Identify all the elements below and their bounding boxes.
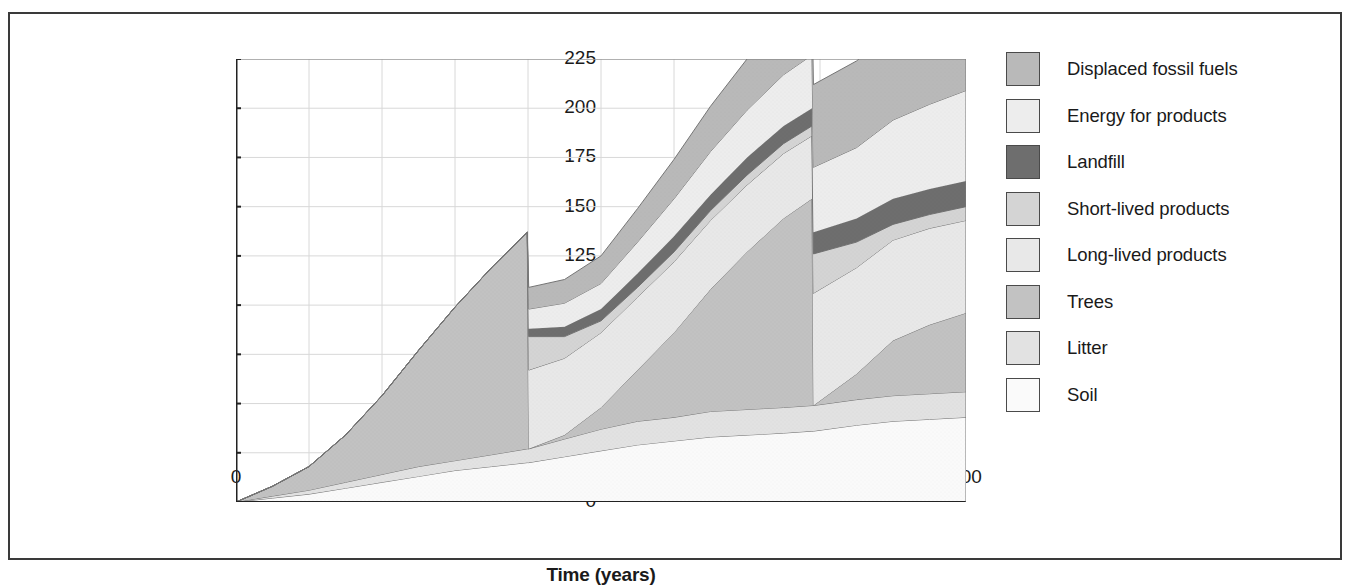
legend-swatch-icon bbox=[1006, 238, 1040, 272]
legend-item[interactable]: Energy for products bbox=[1006, 93, 1336, 140]
plot-area: Time (years) bbox=[236, 59, 966, 502]
legend-swatch-icon bbox=[1006, 52, 1040, 86]
legend-swatch-icon bbox=[1006, 145, 1040, 179]
legend-item[interactable]: Landfill bbox=[1006, 139, 1336, 186]
legend-item-label: Long-lived products bbox=[1067, 244, 1227, 266]
legend-item[interactable]: Long-lived products bbox=[1006, 232, 1336, 279]
legend-item[interactable]: Trees bbox=[1006, 279, 1336, 326]
x-axis-label: Time (years) bbox=[236, 564, 966, 586]
figure-border: Cumulative carbon (tC/ha) 02550751001251… bbox=[8, 12, 1342, 560]
legend-item-label: Soil bbox=[1067, 384, 1097, 406]
stacked-area-chart bbox=[236, 59, 966, 502]
legend-item-label: Displaced fossil fuels bbox=[1067, 58, 1238, 80]
legend-item-label: Landfill bbox=[1067, 151, 1125, 173]
legend-swatch-icon bbox=[1006, 285, 1040, 319]
legend-item-label: Litter bbox=[1067, 337, 1108, 359]
legend-item[interactable]: Litter bbox=[1006, 325, 1336, 372]
legend-item-label: Trees bbox=[1067, 291, 1113, 313]
legend-item[interactable]: Soil bbox=[1006, 372, 1336, 419]
chart-legend: Displaced fossil fuelsEnergy for product… bbox=[1006, 46, 1336, 418]
legend-item-label: Energy for products bbox=[1067, 105, 1227, 127]
legend-item[interactable]: Short-lived products bbox=[1006, 186, 1336, 233]
legend-swatch-icon bbox=[1006, 378, 1040, 412]
legend-swatch-icon bbox=[1006, 192, 1040, 226]
legend-swatch-icon bbox=[1006, 331, 1040, 365]
legend-swatch-icon bbox=[1006, 99, 1040, 133]
legend-item[interactable]: Displaced fossil fuels bbox=[1006, 46, 1336, 93]
legend-item-label: Short-lived products bbox=[1067, 198, 1230, 220]
